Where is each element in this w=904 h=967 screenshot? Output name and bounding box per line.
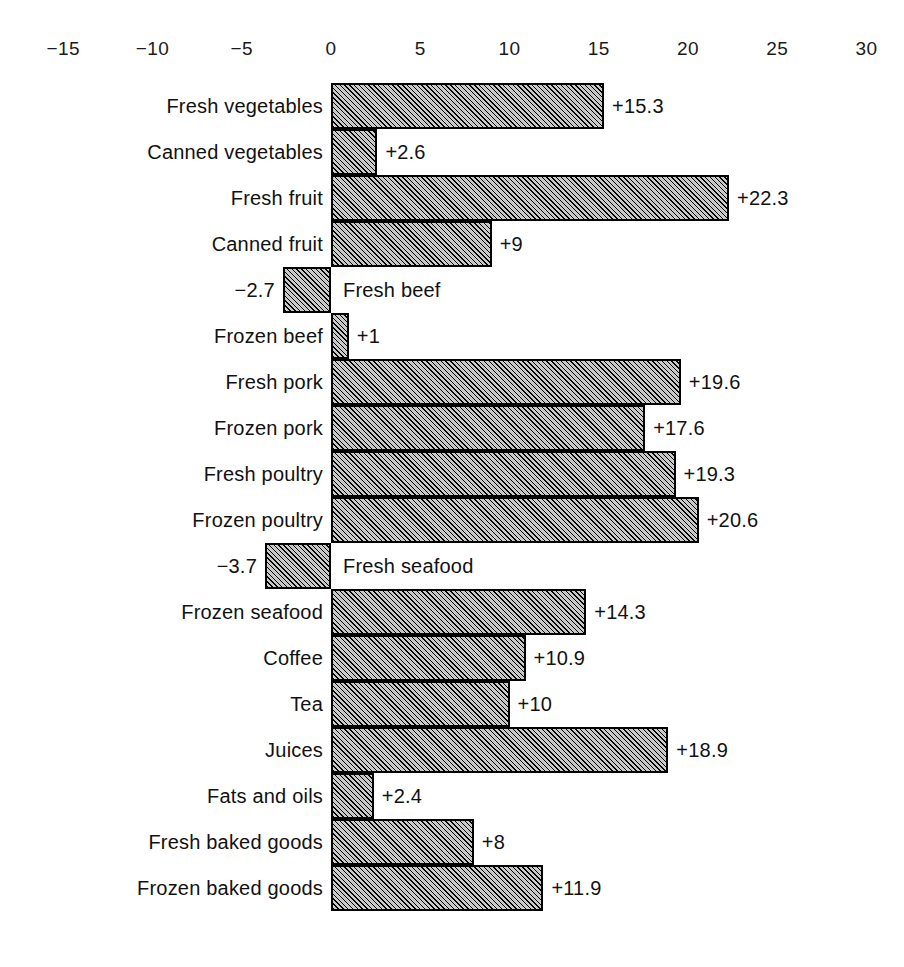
value-label: +20.6 xyxy=(707,510,759,530)
category-label: Coffee xyxy=(263,648,323,668)
bar[interactable] xyxy=(331,681,510,727)
category-label: Fats and oils xyxy=(207,786,323,806)
bar-row: Canned vegetables+2.6 xyxy=(0,129,904,175)
bar-chart: −15−10−5051015202530 Fresh vegetables+15… xyxy=(0,0,904,967)
category-label: Frozen seafood xyxy=(181,602,323,622)
category-label: Juices xyxy=(265,740,323,760)
bar-row: Fats and oils+2.4 xyxy=(0,773,904,819)
bar-row: Tea+10 xyxy=(0,681,904,727)
bar-row: Frozen poultry+20.6 xyxy=(0,497,904,543)
plot-area: Fresh vegetables+15.3Canned vegetables+2… xyxy=(0,0,904,967)
category-label: Fresh vegetables xyxy=(166,96,323,116)
bar-row: Fresh seafood−3.7 xyxy=(0,543,904,589)
bar[interactable] xyxy=(331,405,645,451)
bar[interactable] xyxy=(331,83,604,129)
bar-row: Frozen seafood+14.3 xyxy=(0,589,904,635)
category-label: Frozen poultry xyxy=(192,510,323,530)
category-label: Canned vegetables xyxy=(147,142,323,162)
value-label: +10 xyxy=(518,694,553,714)
bar[interactable] xyxy=(331,175,729,221)
bar-row: Fresh pork+19.6 xyxy=(0,359,904,405)
bar[interactable] xyxy=(331,635,526,681)
bar-row: Frozen baked goods+11.9 xyxy=(0,865,904,911)
bar-row: Frozen beef+1 xyxy=(0,313,904,359)
value-label: −2.7 xyxy=(235,280,275,300)
bar-row: Frozen pork+17.6 xyxy=(0,405,904,451)
category-label: Fresh beef xyxy=(343,280,441,300)
value-label: +8 xyxy=(482,832,505,852)
bar[interactable] xyxy=(331,221,492,267)
value-label: +2.4 xyxy=(382,786,422,806)
category-label: Fresh pork xyxy=(225,372,323,392)
bar-row: Canned fruit+9 xyxy=(0,221,904,267)
category-label: Fresh baked goods xyxy=(148,832,323,852)
bar-row: Fresh vegetables+15.3 xyxy=(0,83,904,129)
bar[interactable] xyxy=(331,359,681,405)
value-label: +14.3 xyxy=(594,602,646,622)
bar-row: Juices+18.9 xyxy=(0,727,904,773)
bar[interactable] xyxy=(331,819,474,865)
bar-row: Fresh beef−2.7 xyxy=(0,267,904,313)
bar[interactable] xyxy=(283,267,331,313)
bar[interactable] xyxy=(331,589,586,635)
value-label: +15.3 xyxy=(612,96,664,116)
value-label: +22.3 xyxy=(737,188,789,208)
bar[interactable] xyxy=(331,773,374,819)
value-label: +19.3 xyxy=(684,464,736,484)
category-label: Frozen baked goods xyxy=(137,878,323,898)
bar[interactable] xyxy=(331,313,349,359)
bar[interactable] xyxy=(331,451,676,497)
bar-row: Fresh poultry+19.3 xyxy=(0,451,904,497)
category-label: Tea xyxy=(290,694,323,714)
value-label: −3.7 xyxy=(217,556,257,576)
bar[interactable] xyxy=(331,129,377,175)
category-label: Frozen beef xyxy=(214,326,323,346)
value-label: +18.9 xyxy=(676,740,728,760)
value-label: +10.9 xyxy=(534,648,586,668)
value-label: +9 xyxy=(500,234,523,254)
category-label: Frozen pork xyxy=(214,418,323,438)
value-label: +11.9 xyxy=(551,878,601,898)
bar-row: Coffee+10.9 xyxy=(0,635,904,681)
category-label: Fresh fruit xyxy=(231,188,323,208)
value-label: +17.6 xyxy=(653,418,705,438)
bar[interactable] xyxy=(331,727,668,773)
category-label: Fresh seafood xyxy=(343,556,473,576)
bar[interactable] xyxy=(331,497,699,543)
category-label: Canned fruit xyxy=(212,234,323,254)
value-label: +2.6 xyxy=(385,142,425,162)
bar-row: Fresh fruit+22.3 xyxy=(0,175,904,221)
bar[interactable] xyxy=(265,543,331,589)
category-label: Fresh poultry xyxy=(204,464,323,484)
bar[interactable] xyxy=(331,865,543,911)
bar-row: Fresh baked goods+8 xyxy=(0,819,904,865)
value-label: +1 xyxy=(357,326,380,346)
value-label: +19.6 xyxy=(689,372,741,392)
